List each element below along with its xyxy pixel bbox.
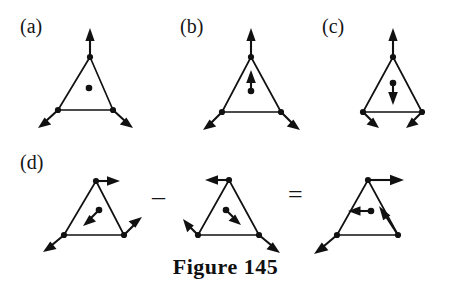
arrow-head [388, 92, 398, 105]
vertex-arrow-bottom-right-b [281, 112, 300, 130]
minus-operator: – [152, 184, 165, 210]
figure-caption: Figure 145 [0, 254, 451, 280]
vertex-dot-bottom-left-d1 [61, 232, 67, 238]
vertex-dot-apex-d3 [365, 177, 371, 183]
vertex-arrow-apex-a [85, 28, 94, 57]
vertex-arrow-bottom-right-d1 [124, 217, 142, 235]
center-dot-d2 [223, 207, 230, 214]
vertex-dot-bottom-left-d2 [195, 232, 201, 238]
triangle-outline-d1 [64, 181, 124, 235]
vertex-dot-apex-a [87, 54, 93, 60]
center-arrow-c [388, 84, 398, 105]
panel-c-diagram [360, 28, 425, 128]
panel-a-diagram [38, 28, 133, 128]
arrow-head [388, 28, 397, 41]
arrow-head [246, 70, 256, 83]
panel-label-d: (d) [20, 152, 43, 172]
arrow-head [246, 28, 255, 41]
arrow-head [107, 176, 120, 185]
panel-d-term-subtrahend-diagram [183, 175, 280, 253]
vertex-dot-bottom-right-a [110, 107, 116, 113]
equals-operator: = [288, 182, 303, 208]
arrow-head [406, 118, 419, 128]
vertex-arrow-bottom-right-a [113, 110, 133, 128]
vertex-arrow-apex-d1 [96, 176, 120, 185]
vertex-dot-apex-d1 [93, 178, 99, 184]
center-dot-b [248, 88, 255, 95]
vertex-dot-bottom-right-d1 [121, 232, 127, 238]
arrow-shaft [385, 215, 398, 235]
vertex-dot-apex-b [248, 54, 254, 60]
figure-diagram-svg [0, 0, 451, 293]
vertex-arrow-bottom-right-c [406, 112, 422, 128]
vertex-arrow-apex-b [246, 28, 255, 57]
triangle-outline-a [58, 57, 113, 110]
vertex-dot-bottom-right-d2 [256, 232, 262, 238]
vertex-dot-bottom-left-b [219, 109, 225, 115]
figure-container: (a) (b) (c) (d) – = Figure 145 [0, 0, 451, 293]
center-arrow-d2 [227, 211, 241, 225]
arrow-head [205, 175, 218, 184]
vertex-arrow-apex-d2 [205, 175, 229, 184]
panel-d-term-minuend-diagram [43, 176, 142, 252]
vertex-arrow-bottom-left-a [38, 110, 58, 128]
vertex-dot-bottom-left-a [55, 107, 61, 113]
vertex-arrow-bottom-left-b [203, 112, 222, 130]
center-dot-a [86, 85, 93, 92]
panel-label-c: (c) [322, 16, 344, 36]
arrow-head [129, 217, 142, 228]
vertex-dot-bottom-left-c [360, 109, 366, 115]
vertex-arrow-apex-c [388, 28, 397, 57]
center-dot-c [390, 80, 397, 87]
triangle-outline-d2 [198, 180, 259, 235]
arrow-head [367, 118, 380, 128]
center-arrow-d1 [83, 211, 98, 226]
vertex-dot-bottom-right-b [278, 109, 284, 115]
panel-b-diagram [203, 28, 300, 130]
vertex-dot-bottom-right-c [419, 109, 425, 115]
vertex-dot-apex-c [390, 54, 396, 60]
vertex-arrow-bottom-right-d3 [379, 206, 398, 235]
arrow-head [85, 28, 94, 41]
center-arrow-d3 [348, 206, 370, 216]
triangle-outline-d3 [337, 180, 398, 235]
center-dot-d3 [368, 208, 375, 215]
vertex-arrow-bottom-left-d2 [183, 219, 198, 235]
vertex-arrow-apex-d3 [368, 175, 404, 185]
vertex-arrow-bottom-right-d2 [259, 235, 280, 253]
panel-label-a: (a) [20, 16, 42, 36]
arrow-head [229, 214, 241, 225]
center-dot-d1 [96, 207, 103, 214]
panel-label-b: (b) [180, 16, 203, 36]
center-arrow-b [246, 70, 256, 90]
panel-d-term-result-diagram [314, 175, 404, 254]
vertex-dot-apex-d2 [226, 177, 232, 183]
vertex-dot-bottom-left-d3 [334, 232, 340, 238]
vertex-arrow-bottom-left-d3 [314, 235, 337, 254]
arrow-head [348, 206, 361, 216]
vertex-arrow-bottom-left-d1 [43, 235, 64, 252]
vertex-arrow-bottom-left-c [363, 112, 379, 128]
arrow-head [390, 175, 404, 185]
vertex-dot-bottom-right-d3 [395, 232, 401, 238]
arrow-head [83, 215, 96, 226]
